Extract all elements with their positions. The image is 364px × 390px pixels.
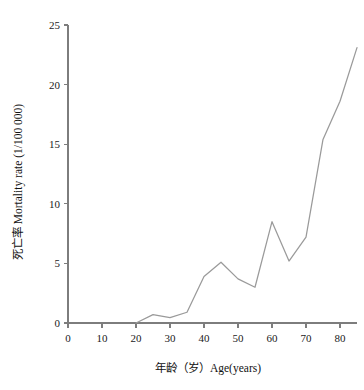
x-tick-label: 40: [199, 332, 211, 344]
x-tick-label: 80: [335, 332, 347, 344]
x-tick-label: 20: [131, 332, 143, 344]
x-tick-label: 0: [65, 332, 71, 344]
chart-tick-marks: [64, 25, 340, 328]
chart-tick-labels: 051015202501020304050607080: [49, 19, 346, 344]
y-axis-title: 死亡率 Mortality rate (1/100 000): [11, 104, 25, 260]
y-tick-label: 20: [49, 79, 61, 91]
x-tick-label: 70: [301, 332, 313, 344]
y-tick-label: 25: [49, 19, 61, 31]
y-tick-label: 5: [55, 257, 61, 269]
chart-axes: [68, 25, 357, 323]
chart-series-lines: [136, 48, 357, 323]
data-series-line: [136, 48, 357, 323]
y-tick-label: 0: [55, 317, 61, 329]
y-tick-label: 10: [49, 198, 61, 210]
mortality-by-age-chart: 051015202501020304050607080 年龄（岁）Age(yea…: [0, 0, 364, 390]
x-axis-title: 年龄（岁）Age(years): [155, 361, 261, 375]
x-tick-label: 60: [267, 332, 279, 344]
x-tick-label: 50: [233, 332, 245, 344]
x-tick-label: 10: [97, 332, 109, 344]
chart-plot-area: 051015202501020304050607080 年龄（岁）Age(yea…: [0, 0, 364, 390]
x-tick-label: 30: [165, 332, 177, 344]
y-tick-label: 15: [49, 138, 61, 150]
